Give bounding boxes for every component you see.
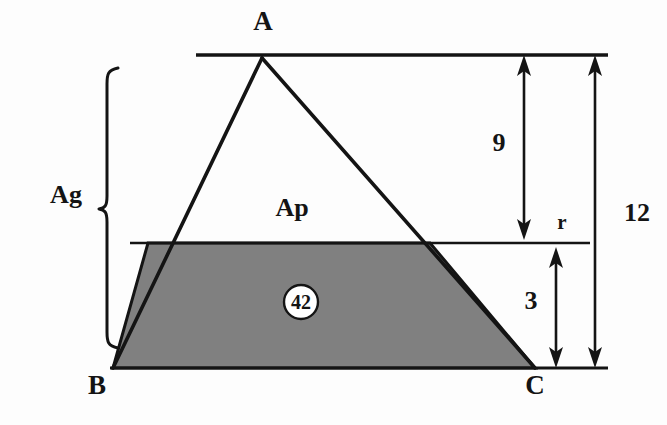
dimension-arrow-3 [549, 247, 563, 368]
dimension-label-9: 9 [484, 130, 514, 156]
vertex-label-a: A [248, 8, 278, 35]
dimension-label-12: 12 [617, 200, 657, 226]
vertex-label-b: B [82, 372, 112, 399]
dimension-arrow-9 [517, 55, 531, 240]
region-label-42: 42 [286, 292, 316, 312]
dimension-arrow-12 [588, 55, 602, 368]
ag-curly-brace [99, 68, 118, 348]
vertex-label-c: C [520, 372, 550, 399]
shaded-trapezoid-region [113, 243, 535, 368]
dimension-label-3: 3 [516, 288, 546, 314]
parallel-line-label-r: r [549, 212, 575, 233]
region-label-ap: Ap [262, 195, 322, 221]
brace-label-ag: Ag [36, 182, 96, 208]
geometry-figure: A B C Ap 42 9 3 12 r Ag [0, 0, 667, 425]
